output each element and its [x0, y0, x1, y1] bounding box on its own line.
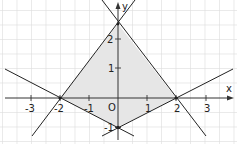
origin-label: O [108, 102, 116, 113]
y-axis-arrow-icon [116, 2, 121, 9]
coordinate-graph: x y O -3 -2 -1 1 2 3 2 1 -1 [0, 0, 237, 144]
y-axis-label: y [122, 1, 128, 12]
x-tick-label: 3 [204, 103, 210, 114]
x-tick-label: 1 [145, 103, 151, 114]
x-axis-arrow-icon [227, 96, 234, 101]
x-axis-label: x [226, 83, 232, 94]
y-tick-label: 2 [107, 34, 113, 45]
x-tick-label: -2 [54, 103, 64, 114]
x-tick-label: 2 [174, 103, 180, 114]
y-tick-label: -1 [104, 122, 114, 133]
y-tick-label: 1 [108, 63, 114, 74]
x-tick-label: -3 [25, 103, 35, 114]
x-tick-label: -1 [84, 103, 94, 114]
